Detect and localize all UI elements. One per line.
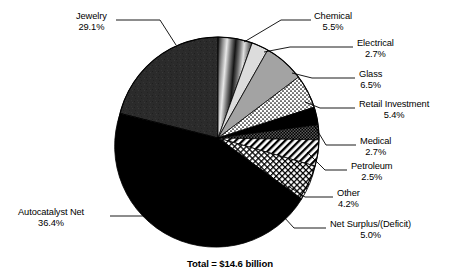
label-glass-name: Glass [359, 69, 382, 80]
label-jewelry-name: Jewelry [76, 11, 107, 22]
label-medical-name: Medical [360, 136, 391, 147]
label-net-surplus-pct: 5.0% [330, 230, 411, 241]
leader-line-electrical [264, 47, 353, 52]
pie-slices [115, 37, 319, 247]
label-other-pct: 4.2% [337, 199, 360, 210]
label-chemical: Chemical 5.5% [314, 11, 352, 33]
label-glass-pct: 6.5% [359, 80, 382, 91]
leader-line-jewelry [116, 20, 176, 45]
label-chemical-name: Chemical [314, 11, 352, 22]
label-retail-investment: Retail Investment 5.4% [359, 99, 429, 121]
label-petroleum: Petroleum 2.5% [351, 161, 392, 183]
label-other-name: Other [337, 188, 360, 199]
label-net-surplus-name: Net Surplus/(Deficit) [330, 219, 411, 230]
label-electrical: Electrical 2.7% [357, 38, 394, 60]
pie-chart-figure: Jewelry 29.1% Chemical 5.5% Electrical 2… [0, 0, 467, 276]
leader-line-glass [292, 73, 355, 78]
label-autocatalyst-net-pct: 36.4% [18, 218, 84, 229]
label-jewelry: Jewelry 29.1% [76, 11, 107, 33]
label-electrical-name: Electrical [357, 38, 394, 49]
label-other: Other 4.2% [337, 188, 360, 210]
label-petroleum-pct: 2.5% [351, 172, 392, 183]
label-glass: Glass 6.5% [359, 69, 382, 91]
label-retail-investment-pct: 5.4% [359, 110, 429, 121]
label-petroleum-name: Petroleum [351, 161, 392, 172]
label-chemical-pct: 5.5% [314, 22, 352, 33]
label-electrical-pct: 2.7% [357, 49, 394, 60]
label-retail-investment-name: Retail Investment [359, 99, 429, 110]
label-autocatalyst-net: Autocatalyst Net 36.4% [18, 207, 84, 229]
chart-total-caption: Total = $14.6 billion [187, 258, 273, 269]
label-net-surplus: Net Surplus/(Deficit) 5.0% [330, 219, 411, 241]
label-autocatalyst-net-name: Autocatalyst Net [18, 207, 84, 218]
label-medical-pct: 2.7% [360, 147, 391, 158]
label-medical: Medical 2.7% [360, 136, 391, 158]
leader-line-chemical [244, 20, 311, 42]
label-jewelry-pct: 29.1% [76, 22, 107, 33]
